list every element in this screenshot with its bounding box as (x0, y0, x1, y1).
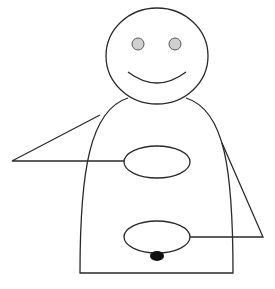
left-connector-line (12, 115, 124, 161)
head-circle (106, 8, 208, 104)
right-connector-line (190, 143, 263, 237)
right-eye (169, 38, 181, 50)
black-dot (150, 251, 164, 261)
figure-drawing (0, 0, 275, 289)
upper-ellipse (124, 146, 190, 178)
lower-ellipse (124, 221, 190, 253)
left-eye (132, 38, 144, 50)
